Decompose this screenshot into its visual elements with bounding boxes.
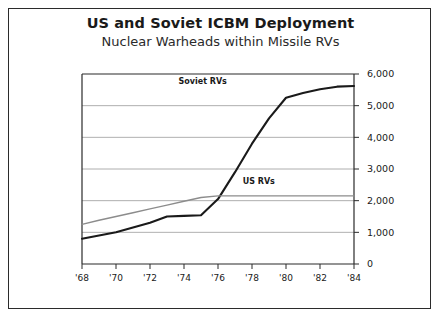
x-axis-tick-label: '80 xyxy=(279,273,293,283)
x-axis-tick-label: '82 xyxy=(313,273,327,283)
y-axis-tick-label: 4,000 xyxy=(367,132,394,143)
series-line xyxy=(82,86,354,239)
y-axis-tick-label: 0 xyxy=(367,258,373,269)
y-axis-tick-label: 3,000 xyxy=(367,163,394,174)
chart-page: US and Soviet ICBM Deployment Nuclear Wa… xyxy=(0,0,441,319)
x-axis-tick-label: '84 xyxy=(347,273,361,283)
y-axis-tick-label: 2,000 xyxy=(367,195,394,206)
y-axis-tick-label: 1,000 xyxy=(367,227,394,238)
plot-area: 01,0002,0003,0004,0005,0006,000'68'70'72… xyxy=(0,0,441,319)
y-axis-tick-label: 5,000 xyxy=(367,100,394,111)
y-axis-tick-label: 6,000 xyxy=(367,68,394,79)
x-axis-tick-label: '78 xyxy=(245,273,259,283)
x-axis-tick-label: '74 xyxy=(177,273,191,283)
line-chart: 01,0002,0003,0004,0005,0006,000'68'70'72… xyxy=(0,0,441,319)
series-annotation-label: US RVs xyxy=(243,177,275,186)
x-axis-tick-label: '70 xyxy=(109,273,123,283)
x-axis-tick-label: '72 xyxy=(143,273,157,283)
series-annotation-label: Soviet RVs xyxy=(179,77,228,86)
x-axis-tick-label: '68 xyxy=(75,273,89,283)
x-axis-tick-label: '76 xyxy=(211,273,225,283)
